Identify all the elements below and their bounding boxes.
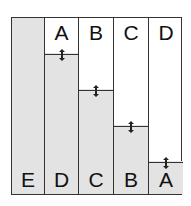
bottom-label: C [79,168,113,192]
column-a-d: A D [45,18,79,194]
resize-vertical-icon[interactable] [92,85,100,97]
resize-vertical-icon[interactable] [127,121,135,133]
top-label: D [149,21,183,45]
column-d-a: D A [149,18,183,194]
top-label: B [79,21,113,45]
column-c-b: C B [114,18,149,194]
column-b-c: B C [79,18,114,194]
resize-vertical-icon[interactable] [58,49,66,61]
top-label: C [114,21,148,45]
column-e: E [12,18,45,194]
top-label: A [45,21,78,45]
bottom-label: E [12,168,44,192]
bottom-label: D [45,168,78,192]
stacked-partition-diagram: E A D B C C B D A [11,17,182,195]
bottom-label: A [149,168,183,192]
bottom-label: B [114,168,148,192]
